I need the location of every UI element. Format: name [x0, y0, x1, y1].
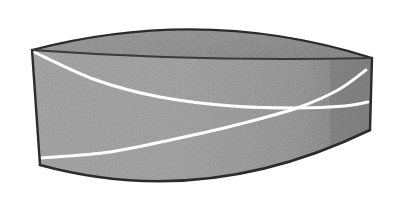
lateral-face — [32, 50, 372, 181]
half-cylinder-figure — [0, 0, 395, 200]
lateral-face-fill — [32, 50, 372, 181]
